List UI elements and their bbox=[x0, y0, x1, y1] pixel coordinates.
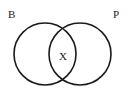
set-p-label: P bbox=[113, 8, 119, 20]
intersection-label: X bbox=[59, 50, 67, 62]
set-b-label: B bbox=[8, 8, 15, 20]
venn-diagram: B P X bbox=[0, 0, 128, 94]
